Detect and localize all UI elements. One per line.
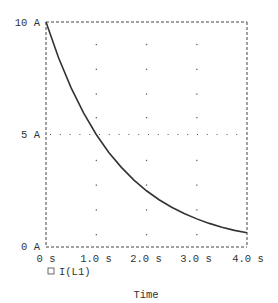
x-tick-3: 3.0 s — [180, 253, 212, 265]
legend: I(L1) — [48, 266, 91, 278]
y-tick-10A: 10 A — [15, 17, 41, 29]
transient-current-chart: 10 A 5 A 0 A 0 s 1.0 s 2.0 s 3.0 s 4.0 s… — [0, 0, 278, 303]
x-tick-1: 1.0 s — [80, 253, 112, 265]
legend-marker-square-icon — [48, 268, 54, 274]
grid-dots — [96, 44, 198, 235]
x-tick-4: 4.0 s — [232, 253, 264, 265]
x-tick-2: 2.0 s — [130, 253, 162, 265]
y-tick-0A: 0 A — [21, 241, 41, 253]
x-tick-0: 0 s — [37, 253, 56, 265]
x-axis-title: Time — [133, 289, 158, 301]
legend-label: I(L1) — [59, 266, 91, 278]
y-tick-5A: 5 A — [21, 129, 41, 141]
series-I-L1-curve — [46, 22, 247, 233]
